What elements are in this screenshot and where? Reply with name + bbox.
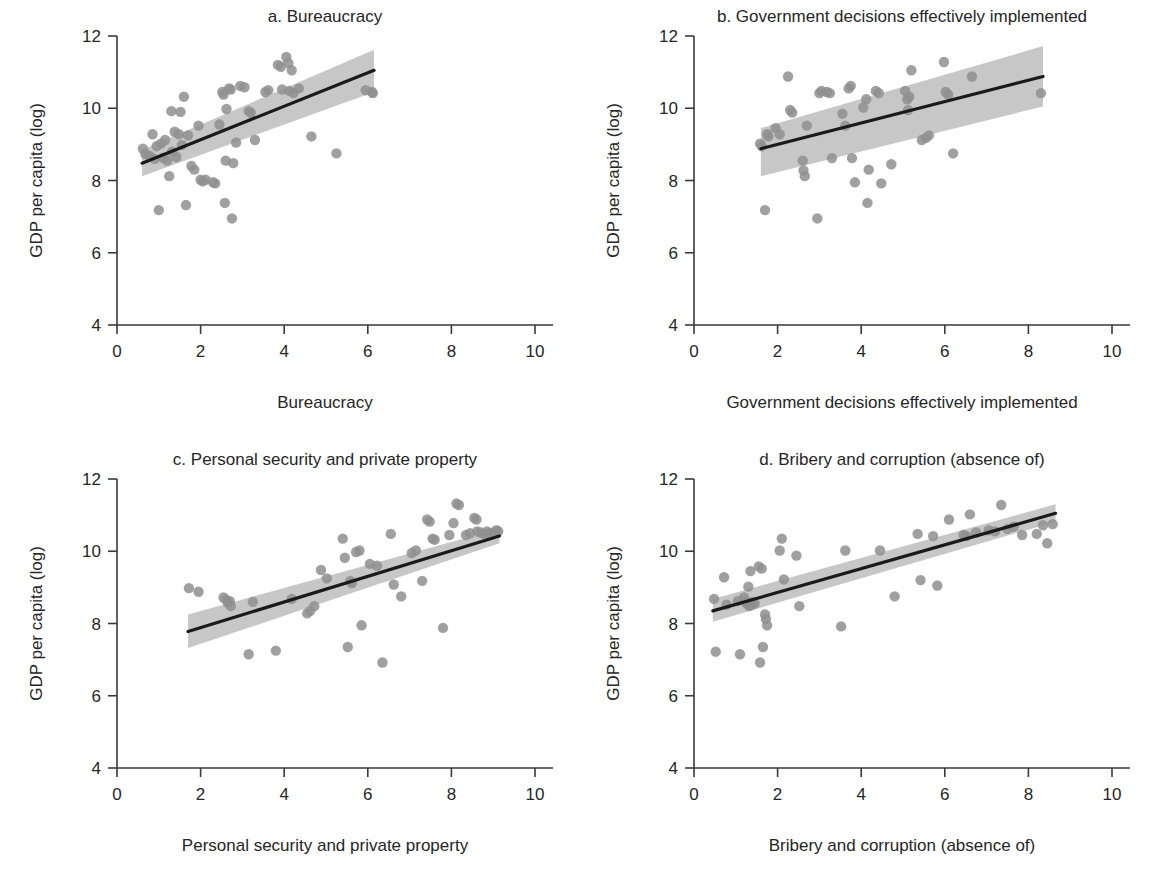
data-point — [340, 553, 350, 563]
data-point — [861, 94, 871, 104]
x-tick-label: 10 — [1103, 342, 1122, 361]
data-point — [338, 533, 348, 543]
data-point — [846, 81, 856, 91]
y-tick-label: 4 — [669, 759, 678, 778]
data-point — [271, 645, 281, 655]
data-point — [306, 131, 316, 141]
data-point — [836, 621, 846, 631]
panel-b-government-decisions: b. Government decisions effectively impl… — [577, 0, 1154, 443]
x-tick-label: 4 — [856, 342, 865, 361]
data-point — [189, 164, 199, 174]
data-point — [763, 131, 773, 141]
panel-title: c. Personal security and private propert… — [173, 450, 478, 469]
data-point — [889, 591, 899, 601]
data-point — [220, 198, 230, 208]
data-point — [862, 198, 872, 208]
data-point — [758, 642, 768, 652]
data-point — [226, 601, 236, 611]
data-point — [287, 65, 297, 75]
data-point — [174, 129, 184, 139]
data-point — [944, 514, 954, 524]
data-point — [372, 561, 382, 571]
data-point — [386, 529, 396, 539]
y-tick-label: 10 — [659, 542, 678, 561]
y-tick-label: 8 — [669, 615, 678, 634]
y-axis-label: GDP per capita (log) — [27, 103, 46, 258]
panel-d-svg: d. Bribery and corruption (absence of)02… — [577, 443, 1154, 887]
data-point — [875, 545, 885, 555]
data-point — [939, 57, 949, 67]
data-point — [263, 85, 273, 95]
data-point — [1036, 88, 1046, 98]
x-tick-label: 6 — [363, 342, 372, 361]
data-point — [356, 620, 366, 630]
x-tick-label: 4 — [279, 342, 288, 361]
data-point — [444, 530, 454, 540]
data-point — [160, 135, 170, 145]
y-tick-label: 6 — [669, 687, 678, 706]
data-point — [368, 88, 378, 98]
scatter-points — [709, 500, 1058, 668]
panel-a-bureaucracy: a. Bureaucracy02468104681012BureaucracyG… — [0, 0, 577, 443]
data-point — [904, 91, 914, 101]
x-axis-label: Bureaucracy — [277, 393, 373, 412]
data-point — [755, 657, 765, 667]
x-tick-label: 0 — [689, 342, 698, 361]
data-point — [915, 575, 925, 585]
x-tick-label: 0 — [112, 342, 121, 361]
data-point — [454, 500, 464, 510]
panel-d-bribery-corruption: d. Bribery and corruption (absence of)02… — [577, 443, 1154, 886]
data-point — [248, 597, 258, 607]
data-point — [840, 545, 850, 555]
data-point — [228, 158, 238, 168]
data-point — [787, 107, 797, 117]
data-point — [448, 518, 458, 528]
x-tick-label: 4 — [856, 785, 865, 804]
x-tick-label: 2 — [773, 785, 782, 804]
panel-title: b. Government decisions effectively impl… — [717, 7, 1087, 26]
data-point — [847, 153, 857, 163]
y-tick-label: 10 — [82, 542, 101, 561]
regression-line — [188, 536, 499, 631]
data-point — [711, 646, 721, 656]
panel-c-svg: c. Personal security and private propert… — [0, 443, 577, 887]
data-point — [309, 601, 319, 611]
data-point — [709, 594, 719, 604]
data-point — [906, 65, 916, 75]
data-point — [322, 573, 332, 583]
data-point — [184, 583, 194, 593]
data-point — [179, 91, 189, 101]
data-point — [932, 580, 942, 590]
x-tick-label: 10 — [526, 785, 545, 804]
data-point — [193, 120, 203, 130]
figure-four-panel-scatter: a. Bureaucracy02468104681012BureaucracyG… — [0, 0, 1154, 887]
x-tick-label: 8 — [1024, 342, 1033, 361]
data-point — [874, 88, 884, 98]
data-point — [1017, 530, 1027, 540]
x-tick-label: 0 — [689, 785, 698, 804]
data-point — [948, 148, 958, 158]
data-point — [471, 514, 481, 524]
data-point — [438, 623, 448, 633]
data-point — [343, 642, 353, 652]
data-point — [876, 178, 886, 188]
x-tick-label: 0 — [112, 785, 121, 804]
data-point — [396, 591, 406, 601]
data-point — [886, 159, 896, 169]
data-point — [719, 572, 729, 582]
data-point — [1042, 538, 1052, 548]
x-tick-label: 6 — [940, 342, 949, 361]
data-point — [827, 153, 837, 163]
data-point — [227, 213, 237, 223]
data-point — [797, 155, 807, 165]
data-point — [757, 563, 767, 573]
data-point — [231, 137, 241, 147]
y-tick-label: 12 — [82, 27, 101, 46]
x-tick-label: 2 — [196, 342, 205, 361]
y-tick-label: 12 — [659, 470, 678, 489]
x-axis-label: Personal security and private property — [182, 836, 469, 855]
confidence-band — [188, 529, 499, 648]
data-point — [943, 89, 953, 99]
panel-c-personal-security: c. Personal security and private propert… — [0, 443, 577, 886]
data-point — [774, 129, 784, 139]
